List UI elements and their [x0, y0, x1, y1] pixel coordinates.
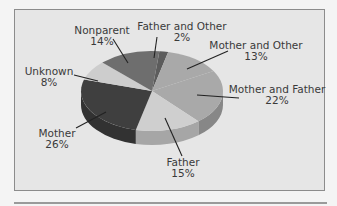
label-nonparent-pct: 14%: [74, 36, 129, 47]
label-father: Father 15%: [166, 157, 199, 179]
label-nonparent: Nonparent 14%: [74, 25, 129, 47]
label-mother-and-father-pct: 22%: [229, 95, 326, 106]
label-mother-and-other: Mother and Other 13%: [209, 40, 302, 62]
label-mother-and-other-pct: 13%: [209, 51, 302, 62]
label-mother-pct: 26%: [38, 139, 75, 150]
label-mother-and-father: Mother and Father 22%: [229, 84, 326, 106]
label-unknown: Unknown 8%: [25, 66, 74, 88]
label-father-pct: 15%: [166, 168, 199, 179]
label-unknown-pct: 8%: [25, 77, 74, 88]
label-mother: Mother 26%: [38, 128, 75, 150]
